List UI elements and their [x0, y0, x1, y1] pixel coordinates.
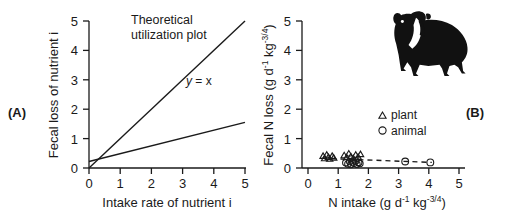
panel-a-xtick-1: 1	[117, 176, 124, 191]
legend-label-animal: animal	[391, 124, 426, 138]
panel-b-xtick-3: 3	[395, 176, 402, 191]
panel-b: 0 1 2 3 4 5 0 1 2 3 4 5	[257, 0, 514, 219]
panel-b-ylabel: Fecal N loss (g d-1 kg-3/4)	[260, 24, 276, 165]
panel-b-letter: (B)	[466, 105, 484, 120]
panel-b-xtick-2: 2	[365, 176, 372, 191]
panel-b-xtick-0: 0	[304, 176, 311, 191]
panel-a-ytick-3: 3	[71, 73, 78, 88]
panel-a-ytick-1: 1	[71, 132, 78, 147]
legend-triangle-marker	[379, 112, 386, 118]
panel-a-xtick-3: 3	[179, 176, 186, 191]
panel-a-ytick-2: 2	[71, 102, 78, 117]
panel-a-ytick-4: 4	[71, 43, 78, 58]
panel-a-ylabel: Fecal loss of nutrient i	[46, 32, 61, 159]
legend-label-plant: plant	[391, 108, 418, 122]
panel-b-ytick-4: 4	[284, 43, 291, 58]
panel-a-line-y-equals-x	[89, 21, 245, 168]
panel-a-annotation-y-equals-x: y = x	[185, 74, 212, 88]
figure-container: 0 1 2 3 4 5 0 1 2 3 4 5	[0, 0, 514, 219]
panel-b-chart: 0 1 2 3 4 5 0 1 2 3 4 5	[257, 0, 514, 219]
legend-circle-marker	[379, 127, 386, 134]
panel-a-line-utilization	[89, 122, 245, 161]
panel-b-ytick-3: 3	[284, 73, 291, 88]
panel-a-xtick-2: 2	[148, 176, 155, 191]
panel-b-xtick-4: 4	[425, 176, 432, 191]
panel-a-y-ticks	[83, 21, 89, 168]
panel-b-fit-line	[323, 158, 432, 162]
panel-a-letter: (A)	[8, 105, 26, 120]
panel-b-xtick-5: 5	[455, 176, 462, 191]
panel-b-ytick-1: 1	[284, 132, 291, 147]
panel-b-y-ticks	[296, 21, 302, 168]
panel-a-title-line2: utilization plot	[131, 28, 207, 42]
panel-a-xtick-4: 4	[210, 176, 217, 191]
panel-a-ytick-5: 5	[71, 14, 78, 29]
panel-b-ytick-5: 5	[284, 14, 291, 29]
panel-b-ytick-0: 0	[284, 161, 291, 176]
panel-b-xlabel: N intake (g d-1 kg-3/4)	[328, 194, 446, 210]
panel-a: 0 1 2 3 4 5 0 1 2 3 4 5	[0, 0, 257, 219]
panel-a-ytick-0: 0	[71, 161, 78, 176]
panel-b-x-ticks	[308, 168, 459, 174]
panel-b-legend: plant animal	[379, 108, 426, 138]
panel-a-x-ticks	[89, 168, 245, 174]
panel-a-chart: 0 1 2 3 4 5 0 1 2 3 4 5	[0, 0, 257, 219]
bear-icon	[393, 11, 467, 76]
panel-a-title-line1: Theoretical	[131, 13, 193, 27]
panel-b-ytick-2: 2	[284, 102, 291, 117]
panel-b-xtick-1: 1	[335, 176, 342, 191]
panel-a-xtick-5: 5	[241, 176, 248, 191]
panel-a-xlabel: Intake rate of nutrient i	[102, 195, 231, 210]
panel-a-xtick-0: 0	[85, 176, 92, 191]
